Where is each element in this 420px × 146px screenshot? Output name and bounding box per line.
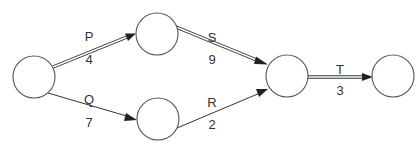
duration-label-t: 3 — [336, 83, 343, 98]
activity-label-q: Q — [84, 92, 94, 107]
arrowhead-icon — [125, 34, 136, 42]
node-after-q — [137, 98, 179, 140]
edge-s — [176, 27, 268, 65]
activity-label-s: S — [208, 30, 217, 45]
node-after-p — [136, 13, 178, 55]
node-end — [372, 55, 414, 97]
arrowhead-icon — [124, 113, 137, 121]
arrowhead-icon — [254, 57, 268, 65]
duration-label-s: 9 — [208, 52, 215, 67]
activity-label-t: T — [336, 62, 344, 77]
edge-p — [53, 34, 136, 68]
network-diagram: P 4 Q 7 S 9 R 2 T 3 — [0, 0, 420, 146]
duration-label-p: 4 — [85, 52, 92, 67]
node-merge — [266, 55, 308, 97]
edge-r — [177, 89, 268, 128]
duration-label-q: 7 — [85, 115, 92, 130]
activity-label-r: R — [207, 95, 216, 110]
node-start — [13, 56, 55, 98]
duration-label-r: 2 — [208, 117, 215, 132]
arrowhead-icon — [362, 73, 373, 81]
arrowhead-icon — [256, 89, 268, 97]
activity-label-p: P — [85, 29, 94, 44]
